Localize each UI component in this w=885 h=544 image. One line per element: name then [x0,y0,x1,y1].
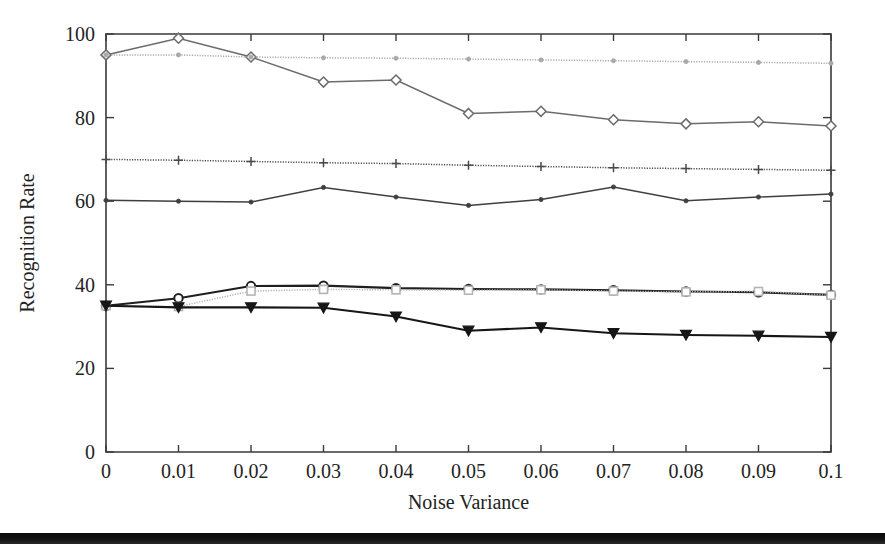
x-axis-title: Noise Variance [408,491,529,513]
marker-square [465,286,473,294]
marker-square [610,287,618,295]
marker-plus [464,161,473,170]
x-tick-label: 0 [101,460,111,482]
x-tick-label: 0.1 [819,460,844,482]
marker-dot [176,53,180,57]
series-path [106,187,831,205]
marker-plus [609,163,618,172]
y-tick-label: 0 [85,441,95,463]
series-series-triangle-down-lowest [101,301,837,342]
marker-square [392,286,400,294]
marker-dot [756,60,760,64]
marker-diamond [536,106,546,116]
marker-square [755,287,763,295]
marker-dot [611,59,615,63]
marker-diamond [754,117,764,127]
marker-dot [539,197,543,201]
y-axis-title: Recognition Rate [16,173,39,313]
series-series-plus-70 [102,155,836,175]
marker-dot [104,198,108,202]
x-tick-label: 0.06 [524,460,559,482]
x-tick-label: 0.09 [741,460,776,482]
plot-frame [106,34,831,452]
marker-dot [684,199,688,203]
x-tick-label: 0.02 [234,460,269,482]
marker-dot [104,53,108,57]
marker-plus [319,158,328,167]
series-series-dot-60 [104,185,833,208]
marker-dot [249,200,253,204]
marker-plus [754,165,763,174]
marker-plus [247,157,256,166]
y-tick-label: 100 [65,23,95,45]
marker-square [247,287,255,295]
marker-square [537,286,545,294]
marker-plus [392,159,401,168]
marker-plus [827,166,836,175]
marker-square [320,285,328,293]
series-series-diamond-declining [101,33,836,131]
y-tick-label: 80 [75,107,95,129]
marker-plus [537,162,546,171]
x-tick-label: 0.07 [596,460,631,482]
x-tick-label: 0.01 [161,460,196,482]
marker-dot [756,195,760,199]
marker-dot [466,57,470,61]
marker-dot [176,199,180,203]
marker-dot [321,56,325,60]
marker-dot [611,185,615,189]
marker-dot [466,203,470,207]
marker-diamond [319,77,329,87]
marker-dot [321,185,325,189]
marker-diamond [681,119,691,129]
x-tick-label: 0.08 [669,460,704,482]
x-tick-label: 0.03 [306,460,341,482]
x-tick-label: 0.04 [379,460,414,482]
series-series-dotted-upper-flat [104,53,833,66]
marker-plus [174,156,183,165]
marker-diamond [464,108,474,118]
line-chart: 00.010.020.030.040.050.060.070.080.090.1… [0,0,885,544]
marker-dot [829,61,833,65]
y-tick-label: 20 [75,357,95,379]
marker-dot [829,192,833,196]
marker-dot [539,58,543,62]
marker-diamond [391,75,401,85]
marker-diamond [826,121,836,131]
marker-dot [684,59,688,63]
x-tick-label: 0.05 [451,460,486,482]
marker-square [827,291,835,299]
marker-plus [102,155,111,164]
marker-dot [249,55,253,59]
marker-diamond [609,115,619,125]
y-tick-label: 40 [75,274,95,296]
y-tick-label: 60 [75,190,95,212]
figure-container: 00.010.020.030.040.050.060.070.080.090.1… [0,0,885,544]
marker-square [682,288,690,296]
page-edge-bar [0,533,885,544]
marker-circle [174,294,182,302]
marker-dot [394,56,398,60]
marker-plus [682,164,691,173]
marker-dot [394,195,398,199]
